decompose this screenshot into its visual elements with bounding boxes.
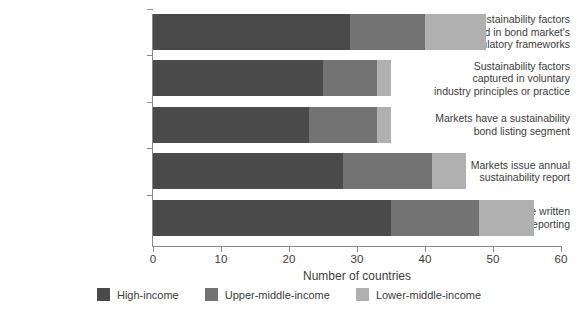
x-axis-tick bbox=[425, 246, 426, 252]
y-axis-tick bbox=[147, 9, 153, 10]
x-axis-tick bbox=[221, 246, 222, 252]
x-axis-tick-label: 60 bbox=[555, 253, 568, 265]
legend-label: High-income bbox=[117, 289, 179, 301]
legend-item[interactable]: Lower-middle-income bbox=[356, 288, 481, 301]
bar-segment-lower-middle-income bbox=[432, 153, 466, 189]
x-axis-tick bbox=[493, 246, 494, 252]
bar-row bbox=[153, 153, 561, 189]
legend-swatch-icon bbox=[205, 288, 218, 301]
x-axis-tick-label: 30 bbox=[351, 253, 364, 265]
bar-segment-lower-middle-income bbox=[425, 14, 486, 50]
x-axis-tick bbox=[357, 246, 358, 252]
bar-segment-high-income bbox=[153, 200, 391, 236]
bar-segment-upper-middle-income bbox=[323, 60, 377, 96]
bar-segment-high-income bbox=[153, 14, 350, 50]
x-axis-tick-label: 10 bbox=[215, 253, 228, 265]
bar-segment-high-income bbox=[153, 60, 323, 96]
stacked-bar bbox=[153, 60, 391, 96]
bar-segment-lower-middle-income bbox=[479, 200, 533, 236]
bar-row bbox=[153, 200, 561, 236]
legend-item[interactable]: Upper-middle-income bbox=[205, 288, 330, 301]
stacked-bar bbox=[153, 153, 466, 189]
legend-swatch-icon bbox=[97, 288, 110, 301]
plot-area bbox=[153, 14, 561, 246]
bar-segment-high-income bbox=[153, 153, 343, 189]
x-axis-tick-label: 40 bbox=[419, 253, 432, 265]
stacked-bar-chart: Sustainability factorscovered in bond ma… bbox=[0, 0, 578, 317]
bar-segment-lower-middle-income bbox=[377, 60, 391, 96]
bar-row bbox=[153, 107, 561, 143]
x-axis-title: Number of countries bbox=[153, 269, 561, 283]
legend-swatch-icon bbox=[356, 288, 369, 301]
bar-segment-upper-middle-income bbox=[309, 107, 377, 143]
x-axis-tick-label: 0 bbox=[150, 253, 156, 265]
bar-segment-upper-middle-income bbox=[343, 153, 431, 189]
bar-segment-upper-middle-income bbox=[350, 14, 425, 50]
chart-legend: High-incomeUpper-middle-incomeLower-midd… bbox=[0, 288, 578, 301]
bar-segment-upper-middle-income bbox=[391, 200, 479, 236]
legend-item[interactable]: High-income bbox=[97, 288, 179, 301]
x-axis-tick-label: 20 bbox=[283, 253, 296, 265]
bar-segment-lower-middle-income bbox=[377, 107, 391, 143]
stacked-bar bbox=[153, 107, 391, 143]
legend-label: Upper-middle-income bbox=[225, 289, 330, 301]
x-axis-tick bbox=[289, 246, 290, 252]
stacked-bar bbox=[153, 200, 534, 236]
legend-label: Lower-middle-income bbox=[376, 289, 481, 301]
bar-segment-high-income bbox=[153, 107, 309, 143]
x-axis-tick bbox=[153, 246, 154, 252]
bar-row bbox=[153, 14, 561, 50]
x-axis-tick-label: 50 bbox=[487, 253, 500, 265]
bar-row bbox=[153, 60, 561, 96]
stacked-bar bbox=[153, 14, 486, 50]
x-axis-tick bbox=[561, 246, 562, 252]
